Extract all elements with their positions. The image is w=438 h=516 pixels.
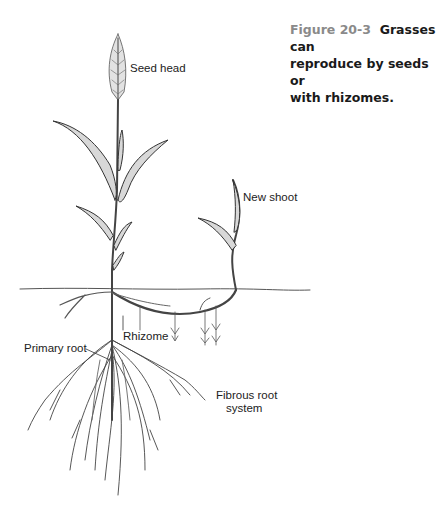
- seed-head-icon: [109, 34, 126, 100]
- figure-number: Figure 20-3: [290, 22, 371, 37]
- fibrous-roots: [28, 340, 205, 495]
- figure-caption: Figure 20-3 Grasses can reproduce by see…: [290, 21, 438, 106]
- label-rhizome: Rhizome: [123, 330, 168, 343]
- label-new-shoot: New shoot: [243, 191, 297, 204]
- label-fibrous-root-line2: system: [226, 402, 262, 415]
- rhizome-line: [112, 290, 236, 314]
- grass-diagram: Seed head New shoot Rhizome Primary root…: [0, 0, 438, 516]
- label-primary-root: Primary root: [24, 342, 87, 355]
- label-seed-head: Seed head: [130, 62, 186, 75]
- ground-line: [20, 288, 310, 290]
- label-fibrous-root-line1: Fibrous root: [216, 389, 277, 402]
- caption-line3: with rhizomes.: [290, 90, 394, 105]
- caption-line2: reproduce by seeds or: [290, 56, 429, 88]
